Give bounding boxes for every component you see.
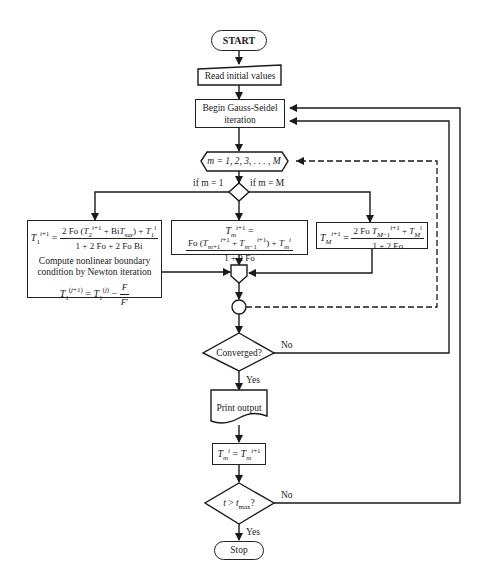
start-label: START <box>223 35 255 46</box>
gauss-seidel-process: Begin Gauss-Seidel iteration <box>195 99 285 128</box>
gauss-label-1: Begin Gauss-Seidel <box>196 102 284 114</box>
read-initial-values: Read initial values <box>200 70 280 84</box>
update-equation: Tmi = Tmi+1 <box>213 448 265 460</box>
read-label: Read initial values <box>205 71 276 81</box>
tmax-label: t > tmax? <box>215 497 263 509</box>
branch-diamond <box>229 183 249 201</box>
loop-end-connector <box>232 300 246 314</box>
converged-label: Converged? <box>210 347 268 359</box>
if-m-M-label: if m = M <box>250 178 284 188</box>
newton-note: Compute nonlinear boundary condition by … <box>28 256 161 278</box>
update-box: Tmi = Tmi+1 <box>212 443 266 465</box>
converged-no-label: No <box>281 340 293 350</box>
converged-yes-label: Yes <box>246 375 260 385</box>
tmax-no-label: No <box>281 490 293 500</box>
interior-equation: Tmi+1 = Fo (Tm+1i+1 + Tm−1i+1) + Tmi1 + … <box>172 225 307 264</box>
merge-junction <box>231 265 247 283</box>
if-m-1-label: if m = 1 <box>193 178 223 188</box>
boundary-right-box: TMi+1 = 2 Fo TM−1i+1 + TMi1 + 2 Fo <box>316 222 428 249</box>
boundary-left-box: T1i+1 = 2 Fo (T2i+1 + BiTsur) + T1i1 + 2… <box>27 220 162 298</box>
interior-node-box: Tmi+1 = Fo (Tm+1i+1 + Tm−1i+1) + Tmi1 + … <box>171 220 308 255</box>
boundary-right-equation: TMi+1 = 2 Fo TM−1i+1 + TMi1 + 2 Fo <box>317 225 427 252</box>
boundary-left-equation: T1i+1 = 2 Fo (T2i+1 + BiTsur) + T1i1 + 2… <box>28 225 161 252</box>
newton-equation: T1(j+1) = T1(j) − FF′ <box>28 281 161 308</box>
gauss-label-2: iteration <box>196 114 284 126</box>
loop-label: m = 1, 2, 3, . . . , M <box>203 155 285 167</box>
stop-terminal: Stop <box>214 541 264 560</box>
start-terminal: START <box>211 30 267 51</box>
tmax-yes-label: Yes <box>246 527 260 537</box>
print-output: Print output <box>211 402 267 414</box>
